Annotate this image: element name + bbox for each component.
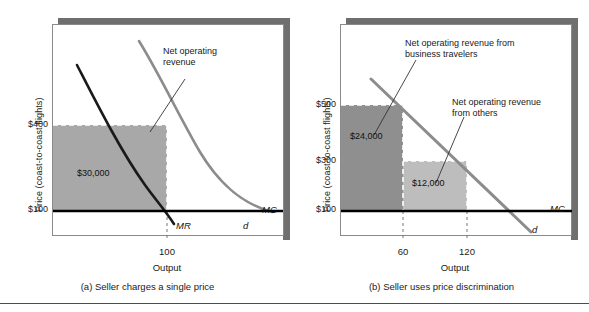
panel-a-curve-label-mr: MR bbox=[176, 220, 191, 231]
panel-b-annotation2-line1: Net operating revenue bbox=[452, 97, 541, 108]
bottom-divider bbox=[0, 303, 589, 304]
panel-b-caption: (b) Seller uses price discrimination bbox=[294, 281, 589, 292]
panel-b-curve-label-d: d bbox=[532, 224, 537, 235]
panel-b-annotation1-line1: Net operating revenue from bbox=[405, 38, 515, 49]
panel-a-curve-label-d: d bbox=[243, 220, 248, 231]
panel-a-caption: (a) Seller charges a single price bbox=[0, 281, 295, 292]
panel-a-graphics bbox=[0, 0, 295, 300]
panel-b-area-label-others: $12,000 bbox=[412, 178, 445, 188]
panel-a-annotation-line2: revenue bbox=[163, 57, 196, 68]
panel-b-area-label-business: $24,000 bbox=[350, 131, 383, 141]
panel-a-curve-label-mc: MC bbox=[262, 204, 277, 215]
panel-a-annotation-line1: Net operating bbox=[163, 46, 217, 57]
panel-b-annotation1-line2: business travelers bbox=[405, 49, 478, 60]
panel-b-curve-label-mc: MC bbox=[550, 203, 565, 214]
panel-b-annotation2-line2: from others bbox=[452, 108, 498, 119]
panel-a: Price (coast-to-coast flights) $400 $100… bbox=[0, 0, 295, 300]
price-discrimination-figure: Price (coast-to-coast flights) $400 $100… bbox=[0, 0, 589, 312]
panel-a-area-label: $30,000 bbox=[77, 168, 110, 178]
panel-b: Price (coast-to-coast flights) $500 $300… bbox=[294, 0, 589, 300]
